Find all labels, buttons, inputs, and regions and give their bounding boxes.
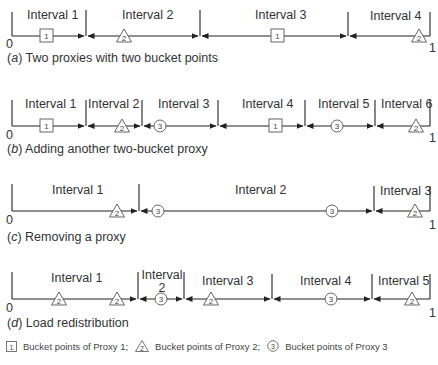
proxy3-circle-marker: 3 xyxy=(331,120,343,132)
svg-text:2: 2 xyxy=(414,124,419,133)
legend-item-proxy2: 2 Bucket points of Proxy 2; xyxy=(135,340,260,352)
legend-item-proxy1: 1 Bucket points of Proxy 1; xyxy=(6,341,128,352)
row-d-interval-5-label: Interval 5 xyxy=(378,274,429,288)
circle-marker-icon: 3 xyxy=(267,340,279,352)
row-a-interval-4-label: Interval 4 xyxy=(370,9,421,23)
svg-text:2: 2 xyxy=(115,209,120,218)
caption-text: Load redistribution xyxy=(22,316,128,330)
row-b-interval-6-label: Interval 6 xyxy=(381,97,432,111)
svg-text:2: 2 xyxy=(413,209,418,218)
proxy3-circle-marker: 3 xyxy=(154,120,166,132)
row-c-interval-2-label: Interval 2 xyxy=(235,183,286,197)
interval-2-line-1: Interval xyxy=(142,268,183,282)
svg-text:1: 1 xyxy=(10,343,14,350)
svg-text:1: 1 xyxy=(44,32,49,41)
row-a-start-label: 0 xyxy=(6,37,13,51)
row-b-interval-3-label: Interval 3 xyxy=(158,97,209,111)
svg-text:3: 3 xyxy=(330,207,335,216)
row-a-interval-3-label: Interval 3 xyxy=(255,8,306,22)
proxy3-circle-marker: 3 xyxy=(326,205,338,217)
svg-text:2: 2 xyxy=(417,34,422,43)
proxy1-square-marker: 1 xyxy=(40,29,53,42)
row-b-end-label: 1 xyxy=(429,131,436,145)
svg-text:3: 3 xyxy=(335,122,340,131)
row-b-caption: (b) Adding another two-bucket proxy xyxy=(7,142,208,156)
svg-text:2: 2 xyxy=(410,297,415,306)
svg-text:2: 2 xyxy=(115,297,120,306)
svg-text:3: 3 xyxy=(159,295,164,304)
svg-text:1: 1 xyxy=(275,32,280,41)
caption-letter: b xyxy=(11,142,18,156)
row-a-end-label: 1 xyxy=(429,41,436,55)
svg-text:3: 3 xyxy=(158,122,163,131)
svg-text:3: 3 xyxy=(271,343,275,350)
svg-text:1: 1 xyxy=(273,122,278,131)
row-d-start-label: 0 xyxy=(6,301,13,315)
legend-text: Bucket points of Proxy 3 xyxy=(285,341,387,352)
legend-item-proxy3: 3 Bucket points of Proxy 3 xyxy=(267,340,387,352)
row-b-interval-4-label: Interval 4 xyxy=(242,97,293,111)
svg-text:3: 3 xyxy=(329,295,334,304)
caption-text: Adding another two-bucket proxy xyxy=(22,142,208,156)
proxy1-square-marker: 1 xyxy=(269,119,282,132)
caption-letter: c xyxy=(11,230,17,244)
row-a-caption: (a) Two proxies with two bucket points xyxy=(7,51,218,65)
svg-text:2: 2 xyxy=(209,297,214,306)
square-marker-icon: 1 xyxy=(6,341,17,352)
row-a-interval-2-label: Interval 2 xyxy=(122,8,173,22)
row-d-caption: (d) Load redistribution xyxy=(7,316,129,330)
row-d-interval-2-label: Interval2 xyxy=(141,269,183,295)
row-b-start-label: 0 xyxy=(6,128,13,142)
legend-text: Bucket points of Proxy 1; xyxy=(23,341,128,352)
svg-text:2: 2 xyxy=(140,345,144,352)
row-a-interval-1-label: Interval 1 xyxy=(27,8,78,22)
svg-text:2: 2 xyxy=(122,34,127,43)
caption-letter: a xyxy=(11,51,18,65)
row-b-interval-2-label: Interval 2 xyxy=(88,97,139,111)
svg-text:2: 2 xyxy=(120,124,125,133)
row-c-caption: (c) Removing a proxy xyxy=(7,230,126,244)
proxy1-square-marker: 1 xyxy=(40,119,53,132)
row-d-end-label: 1 xyxy=(429,306,436,320)
legend: 1 Bucket points of Proxy 1; 2 Bucket poi… xyxy=(6,340,395,352)
svg-text:3: 3 xyxy=(156,207,161,216)
svg-text:2: 2 xyxy=(57,297,62,306)
interval-2-line-2: 2 xyxy=(159,281,166,295)
row-d-interval-1-label: Interval 1 xyxy=(51,271,102,285)
proxy3-circle-marker: 3 xyxy=(325,293,337,305)
row-c-interval-3-label: Interval 3 xyxy=(380,184,431,198)
legend-text: Bucket points of Proxy 2; xyxy=(155,341,260,352)
svg-text:1: 1 xyxy=(44,122,49,131)
row-c-start-label: 0 xyxy=(6,213,13,227)
row-c-interval-1-label: Interval 1 xyxy=(52,183,103,197)
row-d-interval-3-label: Interval 3 xyxy=(202,274,253,288)
row-c-end-label: 1 xyxy=(429,218,436,232)
caption-letter: d xyxy=(11,316,18,330)
caption-text: Two proxies with two bucket points xyxy=(22,51,218,65)
row-d-interval-4-label: Interval 4 xyxy=(300,274,351,288)
proxy1-square-marker: 1 xyxy=(271,29,284,42)
row-b-interval-5-label: Interval 5 xyxy=(318,97,369,111)
triangle-marker-icon: 2 xyxy=(135,340,149,352)
row-b-interval-1-label: Interval 1 xyxy=(25,97,76,111)
caption-text: Removing a proxy xyxy=(22,230,126,244)
proxy3-circle-marker: 3 xyxy=(152,205,164,217)
